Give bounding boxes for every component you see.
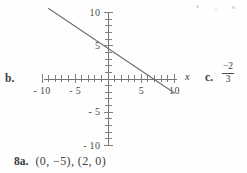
scan-speck xyxy=(215,9,217,11)
fraction-numerator: −2 xyxy=(222,62,234,72)
scan-speck xyxy=(232,6,235,9)
part-label-c: c. xyxy=(205,71,213,83)
line-segment xyxy=(49,9,175,93)
coordinate-graph: - 10- 5510 105- 5- 10 xyxy=(0,0,200,155)
scan-speck xyxy=(196,5,199,8)
fraction-denominator: 3 xyxy=(222,75,234,85)
answer-key-page: b. - 10- 5510 105- 5- 10 x c. −2 3 8a. (… xyxy=(0,0,247,173)
answer-row: 8a. (0, −5), (2, 0) xyxy=(14,154,106,169)
answer-value: (0, −5), (2, 0) xyxy=(35,154,106,169)
x-axis-label: x xyxy=(185,71,190,82)
fraction-answer-c: −2 3 xyxy=(222,62,234,85)
plotted-line xyxy=(0,0,200,155)
answer-number: 8a. xyxy=(14,155,28,167)
